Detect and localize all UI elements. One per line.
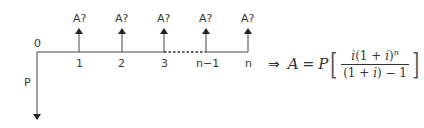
present-value-label: P <box>24 77 31 88</box>
formula-fraction: i(1 + i)n (1 + i) − 1 <box>341 48 409 80</box>
period-label-1: 1 <box>76 58 83 69</box>
equals-sign: = <box>303 56 315 72</box>
payment-label-n-1: A? <box>199 13 212 24</box>
payment-label-1: A? <box>73 13 86 24</box>
formula-factor: P <box>318 55 328 73</box>
period-label-2: 2 <box>118 58 125 69</box>
period-label-n-1: n−1 <box>196 58 219 69</box>
payment-label-3: A? <box>157 13 170 24</box>
payment-label-2: A? <box>115 13 128 24</box>
right-bracket: ] <box>412 49 419 79</box>
origin-label: 0 <box>34 38 41 49</box>
formula-lhs: A <box>288 55 299 73</box>
left-bracket: [ <box>331 49 338 79</box>
period-label-3: 3 <box>161 58 168 69</box>
implies-symbol: ⇒ <box>268 56 280 72</box>
period-label-n: n <box>245 58 252 69</box>
fraction-bar <box>341 64 409 65</box>
fraction-denominator: (1 + i) − 1 <box>341 66 409 80</box>
payment-label-n: A? <box>241 13 254 24</box>
fraction-numerator: i(1 + i)n <box>349 48 401 63</box>
capital-recovery-formula: ⇒ A = P [ i(1 + i)n (1 + i) − 1 ] <box>268 47 422 81</box>
